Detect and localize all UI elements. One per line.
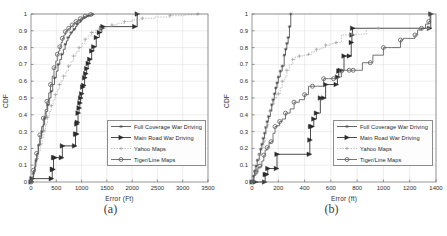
x-tick-label-7: 3500 <box>201 185 214 191</box>
series-marker <box>275 81 278 84</box>
series-marker <box>284 48 287 51</box>
series-marker <box>77 46 81 50</box>
series-marker <box>49 90 52 93</box>
legend-label-2: Yahoo Maps <box>134 146 166 152</box>
y-tick-label-1: 0.1 <box>0 162 27 168</box>
cdf-plot-a <box>0 0 228 212</box>
series-marker <box>60 53 63 56</box>
series-marker <box>258 152 262 156</box>
series-marker <box>264 172 269 177</box>
series-marker <box>334 41 338 45</box>
legend-marker-icon <box>110 122 132 131</box>
y-tick-label-7: 0.7 <box>221 61 248 67</box>
y-tick-label-0: 0 <box>221 179 248 185</box>
series-marker <box>140 16 144 20</box>
x-tick-label-0: 0 <box>250 185 253 191</box>
series-marker <box>288 25 291 28</box>
series-marker <box>49 176 54 181</box>
legend-marker-icon <box>110 155 132 164</box>
series-marker <box>62 74 66 78</box>
y-tick-label-9: 0.9 <box>0 28 27 34</box>
plot-area-a: 050010001500200025003000350000.10.20.30.… <box>0 0 226 200</box>
y-tick-label-3: 0.3 <box>221 129 248 135</box>
series-marker <box>281 64 284 67</box>
x-tick-label-3: 600 <box>326 185 336 191</box>
series-marker <box>72 28 75 31</box>
legend-marker-icon <box>336 155 358 164</box>
series-marker <box>279 70 282 73</box>
y-tick-label-2: 0.2 <box>0 145 27 151</box>
x-tick-label-6: 1200 <box>403 185 416 191</box>
series-marker <box>51 167 56 172</box>
series-marker <box>274 86 277 89</box>
series-marker <box>90 31 94 35</box>
legend-item-3[interactable]: Tiger/Line Maps <box>108 154 205 165</box>
y-tick-label-8: 0.8 <box>221 45 248 51</box>
legend-item-1[interactable]: Main Road War Driving <box>334 132 432 143</box>
x-tick-label-1: 500 <box>51 185 61 191</box>
series-marker <box>307 53 311 57</box>
series-marker <box>283 54 286 57</box>
series-marker <box>260 143 263 146</box>
legend-marker-icon <box>336 144 358 153</box>
y-tick-label-10: 1 <box>0 11 27 17</box>
legend-label-0: Full Coverage War Driving <box>360 124 428 130</box>
x-tick-label-7: 1400 <box>429 185 442 191</box>
series-marker <box>83 37 87 41</box>
series-marker <box>298 54 302 58</box>
legend-item-0[interactable]: Full Coverage War Driving <box>108 121 205 132</box>
y-tick-label-8: 0.8 <box>0 45 27 51</box>
caption-b: (b) <box>221 202 442 217</box>
chart-legend[interactable]: Full Coverage War DrivingMain Road War D… <box>333 120 433 166</box>
series-marker <box>287 36 290 39</box>
legend-item-2[interactable]: Yahoo Maps <box>334 143 432 154</box>
series-marker <box>267 115 270 118</box>
legend-marker-icon <box>110 133 132 142</box>
x-tick-label-5: 1000 <box>377 185 390 191</box>
legend-item-3[interactable]: Tiger/Line Maps <box>334 154 432 165</box>
series-marker <box>49 104 53 108</box>
y-tick-label-1: 0.1 <box>221 162 248 168</box>
x-tick-label-3: 1500 <box>100 185 113 191</box>
series-marker <box>66 36 69 39</box>
legend-item-2[interactable]: Yahoo Maps <box>108 143 205 154</box>
series-marker <box>72 144 77 149</box>
legend-item-0[interactable]: Full Coverage War Driving <box>334 121 432 132</box>
y-tick-label-0: 0 <box>0 179 27 185</box>
series-marker <box>64 43 67 46</box>
subfigure-a: 050010001500200025003000350000.10.20.30.… <box>0 0 221 236</box>
series-marker <box>53 155 58 160</box>
series-marker <box>291 58 295 62</box>
legend-marker-icon <box>110 144 132 153</box>
legend-label-3: Tiger/Line Maps <box>134 157 175 163</box>
legend-label-1: Main Road War Driving <box>360 135 420 141</box>
chart-legend[interactable]: Full Coverage War DrivingMain Road War D… <box>107 120 206 166</box>
y-tick-label-4: 0.4 <box>0 112 27 118</box>
series-marker <box>276 92 280 96</box>
y-tick-label-10: 1 <box>221 11 248 17</box>
subfigure-b: 020040060080010001200140000.10.20.30.40.… <box>221 0 442 236</box>
series-marker <box>334 82 339 87</box>
series-marker <box>376 26 380 30</box>
series-marker <box>58 83 62 87</box>
series-marker <box>285 42 288 45</box>
y-tick-label-7: 0.7 <box>0 61 27 67</box>
x-tick-label-1: 200 <box>273 185 283 191</box>
series-marker <box>56 63 59 66</box>
legend-item-1[interactable]: Main Road War Driving <box>108 132 205 143</box>
x-tick-label-6: 3000 <box>176 185 189 191</box>
legend-label-3: Tiger/Line Maps <box>360 157 401 163</box>
x-tick-label-0: 0 <box>29 185 32 191</box>
y-axis-label: CDF <box>223 94 230 108</box>
series-marker <box>72 54 76 58</box>
y-axis-label: CDF <box>2 94 9 108</box>
x-tick-label-5: 2500 <box>151 185 164 191</box>
plot-area-b: 020040060080010001200140000.10.20.30.40.… <box>221 0 447 200</box>
series-marker <box>307 152 312 157</box>
series-marker <box>277 75 280 78</box>
legend-label-0: Full Coverage War Driving <box>134 124 202 130</box>
series-marker <box>69 31 72 34</box>
series-marker <box>280 79 284 83</box>
series-marker <box>338 68 343 73</box>
